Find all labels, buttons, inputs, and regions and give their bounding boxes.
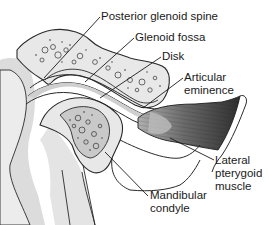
label-lateral-pterygoid-2: pterygoid: [215, 167, 262, 180]
label-disk: Disk: [162, 50, 184, 63]
label-mandibular-condyle-1: Mandibular: [150, 189, 207, 202]
label-articular-eminence-1: Articular: [184, 71, 226, 84]
leader-mandibular-condyle: [105, 152, 148, 196]
label-posterior-glenoid-spine: Posterior glenoid spine: [101, 10, 218, 23]
label-lateral-pterygoid-3: muscle: [215, 180, 251, 193]
label-lateral-pterygoid-1: Lateral: [215, 154, 250, 167]
label-articular-eminence-2: eminence: [184, 84, 234, 97]
label-glenoid-fossa: Glenoid fossa: [135, 31, 205, 44]
tmj-diagram: Posterior glenoid spine Glenoid fossa Di…: [0, 0, 269, 225]
label-mandibular-condyle-2: condyle: [150, 202, 190, 215]
